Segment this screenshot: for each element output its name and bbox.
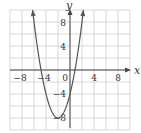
x-tick-label: 4 [91, 73, 97, 83]
y-tick-label: 8 [60, 18, 66, 28]
axes [10, 9, 131, 128]
y-axis-label: y [65, 0, 73, 12]
x-axis-label: x [134, 64, 141, 77]
y-tick-label: 4 [60, 42, 66, 52]
chart: x y −8 −4 0 4 8 8 4 −4 −8 [0, 0, 141, 133]
x-tick-label: −4 [37, 73, 51, 83]
x-tick-labels: −8 −4 0 4 8 [13, 73, 121, 83]
y-tick-label: −4 [53, 89, 67, 99]
x-tick-label: 8 [115, 73, 121, 83]
x-tick-label: −8 [13, 73, 27, 83]
x-tick-label: 0 [62, 73, 68, 83]
